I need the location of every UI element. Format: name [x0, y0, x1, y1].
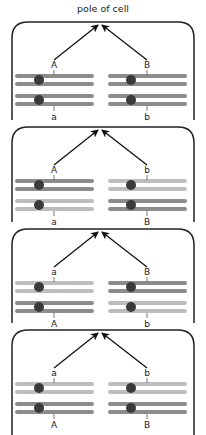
left-top-allele-label: a	[51, 368, 57, 378]
centromere	[126, 383, 136, 393]
right-top-allele-label: B	[144, 267, 150, 277]
spindle-arrow-left	[54, 130, 98, 165]
left-top-allele-label: A	[51, 60, 58, 70]
right-chromosome-top	[110, 282, 185, 292]
spindle-arrow-right	[102, 232, 147, 267]
right-top-allele-label: b	[144, 165, 150, 175]
centromere	[126, 95, 136, 105]
left-bottom-allele-label: A	[51, 319, 58, 329]
right-chromosome-bottom	[110, 200, 185, 210]
left-top-allele-label: A	[51, 165, 58, 175]
left-chromosome-bottom	[17, 95, 92, 105]
cell-panel-2: AabB	[12, 127, 194, 227]
right-bottom-allele-label: b	[144, 112, 150, 122]
centromere	[34, 95, 44, 105]
right-chromosome-bottom	[110, 302, 185, 312]
centromere	[34, 75, 44, 85]
left-bottom-allele-label: A	[51, 420, 58, 430]
spindle-arrow-left	[54, 25, 98, 60]
right-top-allele-label: b	[144, 368, 150, 378]
centromere	[34, 302, 44, 312]
spindle-arrow-left	[54, 232, 98, 267]
spindle-arrow-right	[102, 333, 147, 368]
centromere	[34, 200, 44, 210]
right-bottom-allele-label: B	[144, 420, 150, 430]
right-bottom-allele-label: B	[144, 217, 150, 227]
left-bottom-allele-label: a	[51, 217, 57, 227]
centromere	[126, 75, 136, 85]
left-chromosome-bottom	[17, 302, 92, 312]
left-bottom-allele-label: a	[51, 112, 57, 122]
spindle-arrow-right	[102, 130, 147, 165]
right-chromosome-top	[110, 75, 185, 85]
right-chromosome-top	[110, 383, 185, 393]
centromere	[34, 383, 44, 393]
spindle-arrow-right	[102, 25, 147, 60]
centromere	[34, 403, 44, 413]
left-chromosome-top	[17, 383, 92, 393]
centromere	[126, 282, 136, 292]
centromere	[126, 403, 136, 413]
left-chromosome-top	[17, 180, 92, 190]
right-chromosome-bottom	[110, 403, 185, 413]
left-top-allele-label: a	[51, 267, 57, 277]
centromere	[34, 282, 44, 292]
cell-panel-1: AaBb	[12, 22, 194, 122]
meiosis-diagram: AaBbAabBaABbaAbB	[0, 0, 206, 435]
right-chromosome-bottom	[110, 95, 185, 105]
left-chromosome-top	[17, 75, 92, 85]
centromere	[126, 302, 136, 312]
spindle-arrow-left	[54, 333, 98, 368]
right-bottom-allele-label: b	[144, 319, 150, 329]
right-top-allele-label: B	[144, 60, 150, 70]
right-chromosome-top	[110, 180, 185, 190]
centromere	[126, 180, 136, 190]
left-chromosome-bottom	[17, 200, 92, 210]
left-chromosome-top	[17, 282, 92, 292]
left-chromosome-bottom	[17, 403, 92, 413]
centromere	[126, 200, 136, 210]
cell-panel-4: aAbB	[12, 330, 194, 435]
cell-panel-3: aABb	[12, 229, 194, 329]
centromere	[34, 180, 44, 190]
